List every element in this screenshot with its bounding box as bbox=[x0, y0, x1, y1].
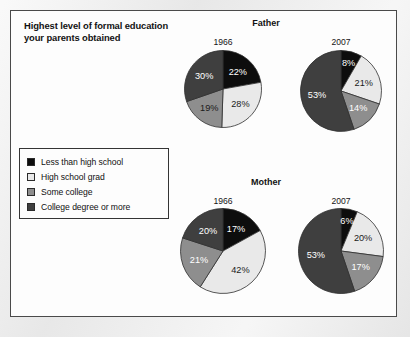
legend-item-label: College degree or more bbox=[41, 202, 130, 212]
pie-slice-label: 6% bbox=[340, 216, 353, 226]
legend-swatch-icon bbox=[27, 173, 35, 181]
legend-swatch-icon bbox=[27, 158, 35, 166]
legend-swatch-icon bbox=[27, 188, 35, 196]
legend: Less than high school High school grad S… bbox=[19, 148, 169, 219]
pie-slice-label: 53% bbox=[307, 250, 325, 260]
pie-slice-label: 8% bbox=[342, 58, 355, 68]
legend-item: High school grad bbox=[27, 169, 168, 184]
pie-slice-label: 20% bbox=[199, 226, 217, 236]
screenshot-root: Highest level of formal education your p… bbox=[0, 0, 410, 337]
legend-item-label: Less than high school bbox=[41, 157, 123, 167]
pie-slice-label: 17% bbox=[352, 262, 370, 272]
group-header-mother: Mother bbox=[221, 177, 311, 187]
year-label-mother-1966: 1966 bbox=[193, 196, 253, 206]
pie-svg: 8%21%14%53% bbox=[299, 49, 383, 133]
legend-swatch-icon bbox=[27, 203, 35, 211]
year-label-father-2007: 2007 bbox=[311, 37, 371, 47]
pie-chart-father-2007: 8%21%14%53% bbox=[299, 49, 383, 133]
pie-slice-label: 21% bbox=[190, 255, 208, 265]
year-label-mother-2007: 2007 bbox=[311, 196, 371, 206]
pie-chart-father-1966: 22%28%19%30% bbox=[183, 49, 263, 129]
legend-item-label: Some college bbox=[41, 187, 92, 197]
pie-slice-label: 14% bbox=[349, 103, 367, 113]
group-header-father: Father bbox=[221, 18, 311, 28]
year-label-father-1966: 1966 bbox=[193, 37, 253, 47]
pie-svg: 22%28%19%30% bbox=[183, 49, 263, 129]
pie-slice-label: 19% bbox=[200, 103, 218, 113]
pie-slice-label: 22% bbox=[229, 67, 247, 77]
pie-slice-label: 53% bbox=[308, 90, 326, 100]
page-title: Highest level of formal education your p… bbox=[24, 20, 174, 45]
pie-chart-mother-1966: 17%42%21%20% bbox=[179, 207, 267, 295]
pie-svg: 6%20%17%53% bbox=[297, 207, 385, 295]
pie-slice-label: 20% bbox=[354, 233, 372, 243]
pie-slice-label: 21% bbox=[355, 78, 373, 88]
chart-panel: Highest level of formal education your p… bbox=[10, 10, 397, 317]
legend-item: Some college bbox=[27, 184, 168, 199]
legend-item: Less than high school bbox=[27, 154, 168, 169]
pie-slice-label: 42% bbox=[231, 265, 249, 275]
pie-slice-label: 30% bbox=[195, 71, 213, 81]
pie-slice-label: 28% bbox=[231, 99, 249, 109]
pie-chart-mother-2007: 6%20%17%53% bbox=[297, 207, 385, 295]
pie-svg: 17%42%21%20% bbox=[179, 207, 267, 295]
legend-item: College degree or more bbox=[27, 199, 168, 214]
pie-slice-label: 17% bbox=[227, 224, 245, 234]
legend-item-label: High school grad bbox=[41, 172, 105, 182]
